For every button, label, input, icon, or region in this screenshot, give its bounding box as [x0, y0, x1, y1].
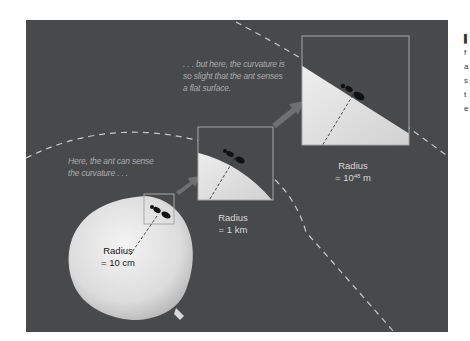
- caption-far: . . . but here, the curvature is so slig…: [183, 58, 285, 94]
- label-1km-line1: Radius: [193, 212, 273, 224]
- caption-far-line1: . . . but here, the curvature is: [183, 58, 285, 70]
- sidebar-letter-5: e: [464, 102, 470, 116]
- label-huge-line2: = 1048 m: [313, 172, 393, 184]
- label-balloon-line1: Radius: [78, 245, 158, 257]
- sidebar-letter-2: a: [464, 60, 470, 74]
- label-1km-radius: Radius = 1 km: [193, 212, 273, 236]
- zoom-arrow-2: [272, 101, 304, 128]
- sidebar-letter-4: t: [464, 88, 470, 102]
- label-huge-radius: Radius = 1048 m: [313, 160, 393, 184]
- label-huge-line1: Radius: [313, 160, 393, 172]
- sidebar-blank: [464, 18, 470, 32]
- label-1km-line2: = 1 km: [193, 224, 273, 236]
- caption-near: Here, the ant can sense the curvature . …: [68, 155, 154, 179]
- caption-near-line2: the curvature . . .: [68, 167, 154, 179]
- figure-panel: . . . but here, the curvature is so slig…: [26, 20, 448, 332]
- label-huge-suffix: m: [360, 172, 371, 183]
- caption-near-line1: Here, the ant can sense: [68, 155, 154, 167]
- panel-1km: [186, 127, 276, 205]
- sidebar-bold-mark: ▌: [464, 32, 470, 46]
- label-balloon-radius: Radius = 10 cm: [78, 245, 158, 269]
- panel-huge: [296, 36, 416, 150]
- label-balloon-line2: = 10 cm: [78, 257, 158, 269]
- sidebar-letter-1: f: [464, 46, 470, 60]
- sidebar-letter-3: s: [464, 74, 470, 88]
- zoom-arrow-1: [176, 176, 200, 195]
- label-huge-exponent: 48: [354, 173, 361, 179]
- caption-far-line3: a flat surface.: [183, 82, 285, 94]
- cropped-side-text: ▌ f a s t e: [464, 18, 470, 116]
- caption-far-line2: so slight that the ant senses: [183, 70, 285, 82]
- label-huge-prefix: = 10: [335, 172, 354, 183]
